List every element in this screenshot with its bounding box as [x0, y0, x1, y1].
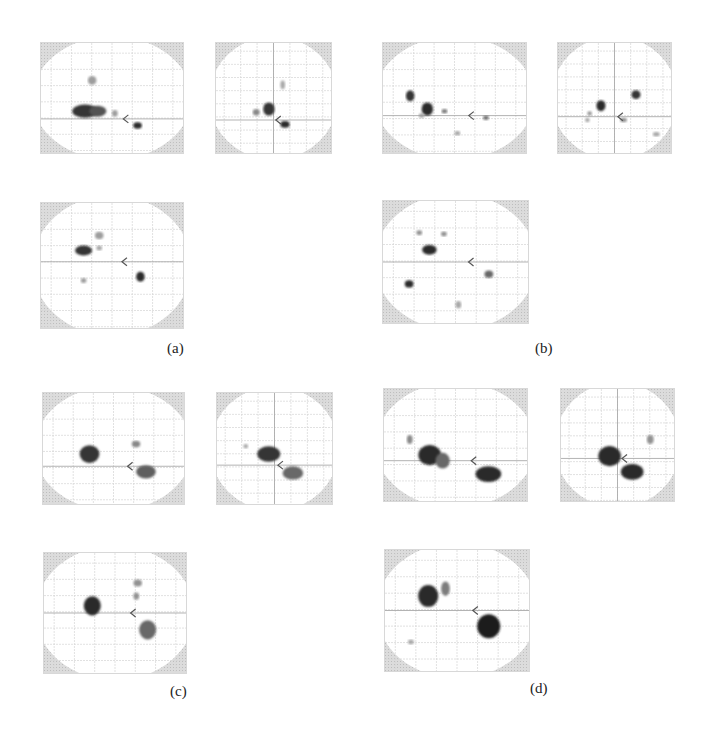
glass-brain-c-axial [43, 552, 187, 674]
panel-label-a: (a) [167, 340, 184, 357]
panel-label-c: (c) [170, 683, 187, 700]
glass-brain-a-axial [40, 202, 184, 329]
glass-brain-c-sagittal [42, 392, 185, 505]
glass-brain-b-axial [382, 200, 529, 324]
glass-brain-a-sagittal [40, 42, 184, 154]
glass-brain-c-coronal [216, 392, 333, 505]
panel-label-b: (b) [535, 340, 553, 357]
panel-label-d: (d) [530, 680, 548, 697]
glass-brain-d-axial [384, 549, 530, 672]
glass-brain-b-sagittal [382, 42, 527, 154]
glass-brain-b-coronal [557, 42, 672, 154]
glass-brain-a-coronal [215, 42, 332, 154]
glass-brain-d-coronal [560, 388, 675, 502]
glass-brain-d-sagittal [383, 388, 528, 502]
